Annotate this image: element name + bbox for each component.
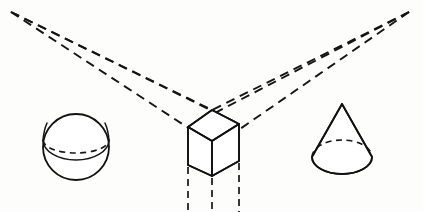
sphere-outline-circle <box>43 114 109 180</box>
perspective-diagram: Line drawing showing a sphere, a cube an… <box>0 0 423 212</box>
perspective-drawing-canvas <box>0 0 423 212</box>
sphere-shape <box>43 114 109 180</box>
